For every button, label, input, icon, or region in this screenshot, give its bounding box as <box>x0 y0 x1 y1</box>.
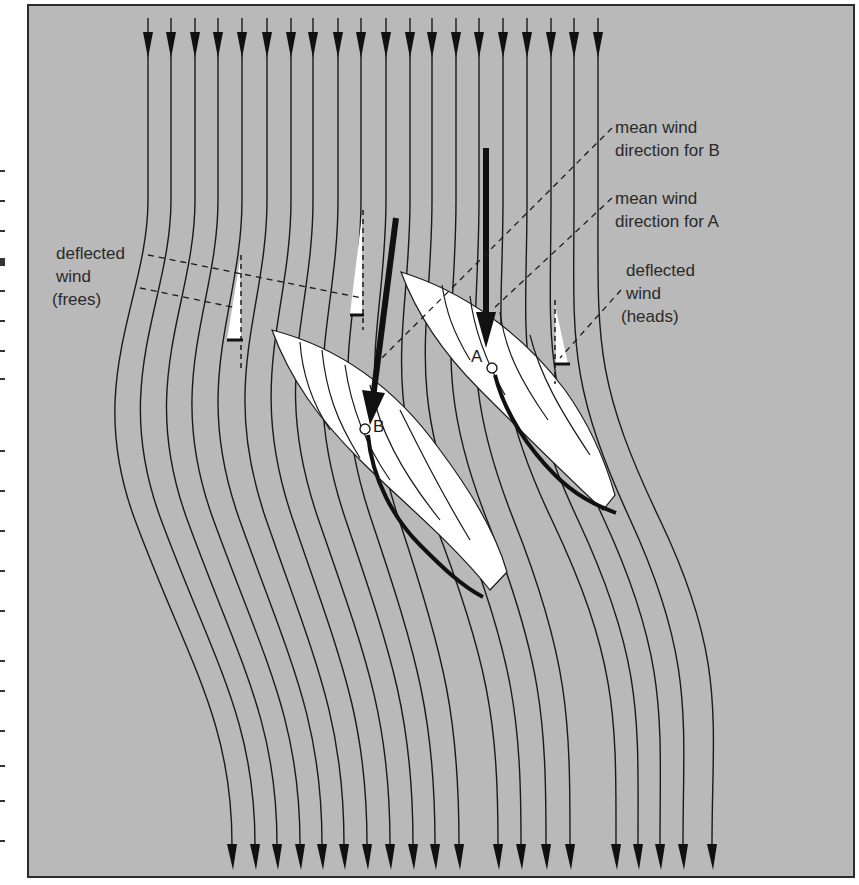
label-heads-line3: (heads) <box>621 307 679 326</box>
boat-a-mast <box>487 363 497 373</box>
wind-deflection-diagram: B A <box>0 0 859 885</box>
label-mean-wind-b-line1: mean wind <box>615 118 697 137</box>
page-edge-text-fragments <box>0 150 6 870</box>
boat-a-label: A <box>471 347 483 366</box>
label-frees-line1: deflected <box>56 244 125 263</box>
label-mean-wind-b-line2: direction for B <box>615 141 720 160</box>
label-frees-line2: wind <box>55 267 91 286</box>
label-mean-wind-a-line2: direction for A <box>615 212 720 231</box>
label-frees-line3: (frees) <box>52 290 101 309</box>
diagram-background <box>28 5 854 877</box>
label-heads-line1: deflected <box>626 261 695 280</box>
boat-b-mast <box>360 424 370 434</box>
boat-b-label: B <box>373 417 384 436</box>
label-heads-line2: wind <box>625 284 661 303</box>
label-mean-wind-a-line1: mean wind <box>615 189 697 208</box>
